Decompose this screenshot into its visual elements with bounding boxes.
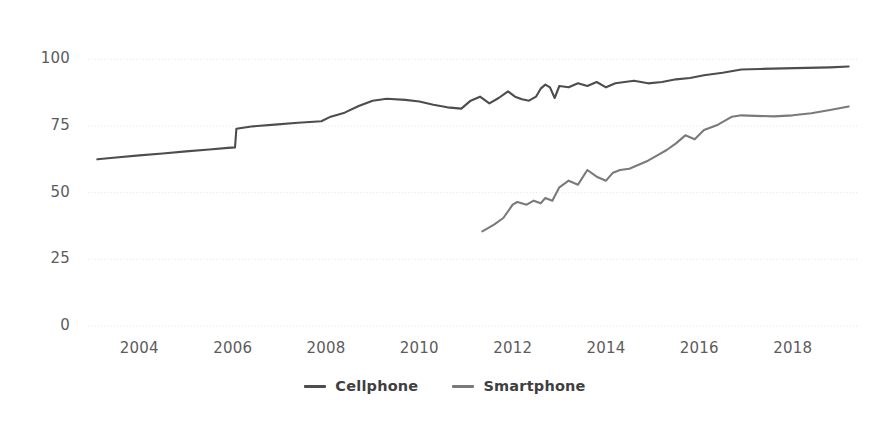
x-tick-label-2018: 2018 <box>758 339 828 357</box>
legend-line-swatch-icon <box>304 385 326 388</box>
y-tick-label-50: 50 <box>14 183 70 201</box>
legend-line-swatch-icon <box>452 385 474 388</box>
legend-item-smartphone[interactable]: Smartphone <box>452 378 585 394</box>
legend-label: Cellphone <box>335 378 418 394</box>
y-tick-label-100: 100 <box>14 49 70 67</box>
chart-plot-area <box>0 0 890 425</box>
x-tick-label-2014: 2014 <box>571 339 641 357</box>
x-tick-label-2012: 2012 <box>478 339 548 357</box>
line-chart: 1007550250 20042006200820102012201420162… <box>0 0 890 425</box>
chart-legend: CellphoneSmartphone <box>0 378 890 394</box>
x-tick-label-2016: 2016 <box>664 339 734 357</box>
x-tick-label-2010: 2010 <box>384 339 454 357</box>
series-line-cellphone <box>97 67 848 160</box>
x-tick-label-2008: 2008 <box>291 339 361 357</box>
y-tick-label-75: 75 <box>14 116 70 134</box>
y-tick-label-25: 25 <box>14 249 70 267</box>
legend-item-cellphone[interactable]: Cellphone <box>304 378 418 394</box>
legend-label: Smartphone <box>483 378 585 394</box>
x-tick-label-2004: 2004 <box>104 339 174 357</box>
y-tick-label-0: 0 <box>14 316 70 334</box>
series-line-smartphone <box>482 107 848 232</box>
x-tick-label-2006: 2006 <box>198 339 268 357</box>
series-lines <box>97 67 848 232</box>
